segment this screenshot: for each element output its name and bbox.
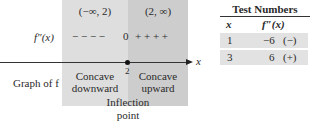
test-row-2-sign: (+) — [283, 51, 297, 63]
test-row-1-value: −6 — [263, 34, 275, 46]
axis-arrow-icon — [186, 59, 193, 65]
graph-of-f-text: Graph of f — [13, 77, 59, 89]
test-table-title: Test Numbers — [222, 3, 308, 15]
concave-upward-line2: upward — [128, 82, 188, 94]
axis-variable-label: x — [196, 55, 201, 67]
concave-downward-line1: Concave — [62, 70, 128, 82]
interval-label-left: (−∞, 2) — [62, 5, 128, 17]
test-row-1-x: 1 — [227, 34, 233, 46]
concave-upward-label: Concave upward — [128, 70, 188, 94]
positive-signs: + + + + — [135, 30, 168, 42]
graph-of-f-label: Graph of f — [13, 77, 59, 89]
test-row-1-sign: (−) — [283, 34, 297, 46]
test-row-2-value: 6 — [269, 51, 275, 63]
test-table-header-x: x — [226, 18, 232, 30]
negative-signs: − − − − — [72, 30, 105, 42]
inflection-line2: point — [98, 109, 158, 122]
second-derivative-label: f″(x) — [34, 31, 54, 43]
interval-label-right: (2, ∞) — [128, 5, 188, 17]
inflection-line1: Inflection — [98, 96, 158, 109]
inflection-point-annotation: Inflection point — [98, 96, 158, 122]
test-row-2-x: 3 — [227, 51, 233, 63]
zero-sign: 0 — [123, 30, 129, 42]
x-axis-line — [0, 62, 188, 63]
concave-downward-label: Concave downward — [62, 70, 128, 94]
concave-upward-line1: Concave — [128, 70, 188, 82]
test-table-header-fpp: f″(x) — [262, 18, 285, 30]
test-table-rule — [220, 16, 310, 17]
concave-downward-line2: downward — [62, 82, 128, 94]
inflection-point-marker — [125, 60, 130, 65]
